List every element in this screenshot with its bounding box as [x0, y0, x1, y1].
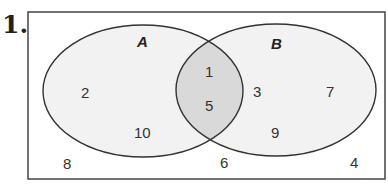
- value-b-9: 9: [271, 124, 279, 141]
- venn-diagram: A B 2 10 1 5 3 7 9 8 6 4: [0, 0, 388, 184]
- value-outside-8: 8: [63, 155, 71, 172]
- value-b-3: 3: [253, 83, 261, 100]
- value-outside-6: 6: [220, 154, 228, 171]
- value-outside-4: 4: [350, 154, 358, 171]
- value-a-2: 2: [81, 84, 89, 101]
- value-a-10: 10: [134, 124, 151, 141]
- value-b-7: 7: [326, 83, 334, 100]
- value-ab-1: 1: [205, 63, 213, 80]
- value-ab-5: 5: [205, 97, 213, 114]
- set-a-label: A: [136, 33, 148, 50]
- set-b-label: B: [271, 35, 282, 52]
